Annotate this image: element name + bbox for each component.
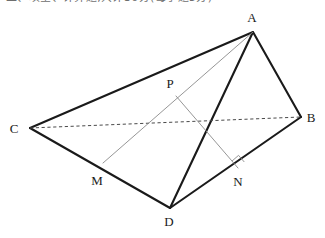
edge-AC [30,32,253,128]
figure-page: 二、填空、计算题,共计30分(每小题5分) A B C D M N P [0,0,325,238]
solid-edges [30,32,301,208]
hidden-edges [30,117,301,128]
vertex-label-M: M [91,173,103,188]
vertex-label-A: A [247,10,257,25]
vertex-labels: A B C D M N P [10,10,316,229]
edge-AM [103,32,253,163]
edge-AB [253,32,301,117]
vertex-label-D: D [164,214,173,229]
edge-PN [176,96,238,168]
construction-lines [103,32,253,168]
vertex-label-B: B [307,110,316,125]
edge-CD [30,128,170,208]
geometry-figure: A B C D M N P [0,0,325,238]
edge-DB [170,117,301,208]
vertex-label-N: N [233,174,243,189]
vertex-label-P: P [166,76,173,91]
vertex-label-C: C [10,121,19,136]
edge-CB-dashed [30,117,301,128]
